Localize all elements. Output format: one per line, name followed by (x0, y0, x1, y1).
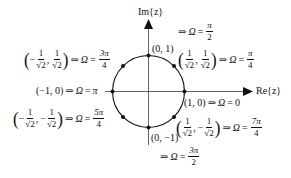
omega-symbol: Ω (229, 55, 236, 65)
omega-symbol: Ω (170, 152, 177, 162)
label-omega-0: (1, 0) ⇒ Ω = 0 (184, 98, 240, 108)
coord-y-fraction: 1 √2 (52, 49, 61, 70)
equals-symbol: = (85, 114, 91, 124)
omega-fraction: π 4 (247, 49, 254, 70)
label-omega-3pi-4: ( − 1 √2 , 1 √2 ) ⇒ Ω = 3π 4 (24, 49, 111, 70)
omega-numerator: 3π (188, 146, 199, 157)
omega-denominator: 4 (248, 60, 253, 70)
label-omega-5pi-4: ( − 1 √2 , − 1 √2 ) ⇒ Ω = 5π 4 (13, 108, 105, 129)
omega-fraction: 7π 4 (251, 117, 262, 138)
coord-x-fraction: 1 √2 (183, 117, 192, 138)
coord-text: (0, 1) (152, 44, 174, 54)
omega-numerator: π (247, 49, 254, 60)
coord-text: (−1, 0) (36, 86, 63, 96)
omega-symbol: Ω (233, 123, 240, 133)
minus-sign: − (19, 114, 25, 124)
label-omega-7pi-4: ( 1 √2 , − 1 √2 ) ⇒ Ω = 7π 4 (176, 117, 263, 138)
equals-symbol: = (85, 86, 91, 96)
right-paren: ) (57, 109, 63, 129)
imag-axis-arrow-icon (144, 19, 153, 29)
label-coord-0-1: (0, 1) (152, 44, 174, 54)
numerator: 1 (202, 49, 209, 60)
implies-symbol: ⇒ (70, 55, 78, 65)
label-omega-pi-2: ⇒ Ω = π 2 (178, 21, 214, 42)
denominator: √2 (47, 119, 56, 129)
omega-fraction: π 2 (206, 21, 213, 42)
point-omega-5pi-4 (121, 115, 125, 119)
omega-numerator: π (206, 21, 213, 32)
coord-y-fraction: 1 √2 (201, 49, 210, 70)
minus-sign: − (198, 123, 204, 133)
right-paren: ) (63, 50, 69, 70)
coord-text: (1, 0) (184, 98, 206, 108)
point-omega-pi-4 (172, 64, 176, 68)
coord-x-fraction: 1 √2 (185, 49, 194, 70)
omega-symbol: Ω (188, 27, 195, 37)
comma: , (36, 114, 39, 124)
omega-denominator: 4 (254, 128, 259, 138)
omega-fraction: 5π 4 (93, 108, 104, 129)
real-axis-arrow-icon (243, 87, 253, 96)
numerator: 1 (38, 49, 45, 60)
comma: , (193, 123, 196, 133)
equals-symbol: = (198, 27, 204, 37)
point-omega-pi (111, 90, 115, 94)
implies-symbol: ⇒ (65, 114, 73, 124)
omega-value: 0 (235, 98, 240, 108)
denominator: √2 (204, 128, 213, 138)
implies-symbol: ⇒ (219, 55, 227, 65)
imag-axis-label-text: Im{z} (138, 7, 163, 17)
implies-symbol: ⇒ (208, 98, 216, 108)
minus-sign: − (30, 55, 36, 65)
equals-symbol: = (180, 152, 186, 162)
equals-symbol: = (238, 55, 244, 65)
omega-symbol: Ω (75, 114, 82, 124)
denominator: √2 (36, 60, 45, 70)
omega-denominator: 4 (97, 119, 102, 129)
left-paren: ( (178, 50, 184, 70)
implies-symbol: ⇒ (160, 152, 168, 162)
denominator: √2 (52, 60, 61, 70)
denominator: √2 (25, 119, 34, 129)
denominator: √2 (183, 128, 192, 138)
implies-symbol: ⇒ (222, 123, 230, 133)
point-omega-3pi-2 (147, 126, 151, 130)
implies-symbol: ⇒ (65, 86, 73, 96)
label-omega-3pi-2: ⇒ Ω = 3π 2 (160, 146, 200, 167)
denominator: √2 (185, 60, 194, 70)
denominator: √2 (201, 60, 210, 70)
coord-text: (0, −1) (151, 133, 178, 143)
numerator: 1 (184, 117, 191, 128)
point-omega-0 (183, 90, 187, 94)
minus-sign: − (40, 114, 46, 124)
omega-denominator: 2 (207, 32, 212, 42)
omega-symbol: Ω (76, 86, 83, 96)
omega-value: π (93, 86, 98, 96)
coord-y-fraction: 1 √2 (47, 108, 56, 129)
left-paren: ( (24, 50, 30, 70)
equals-symbol: = (90, 55, 96, 65)
omega-denominator: 4 (102, 60, 107, 70)
comma: , (47, 55, 50, 65)
label-omega-pi-4: ( 1 √2 , 1 √2 ) ⇒ Ω = π 4 (178, 49, 255, 70)
equals-symbol: = (242, 123, 248, 133)
point-omega-3pi-4 (121, 64, 125, 68)
numerator: 1 (54, 49, 61, 60)
real-axis-label-text: Re{z} (256, 86, 281, 96)
omega-numerator: 5π (93, 108, 104, 119)
omega-symbol: Ω (81, 55, 88, 65)
left-paren: ( (13, 109, 19, 129)
comma: , (195, 55, 198, 65)
right-paren: ) (215, 118, 221, 138)
point-omega-pi-2 (147, 54, 151, 58)
coord-y-fraction: 1 √2 (204, 117, 213, 138)
coord-x-fraction: 1 √2 (36, 49, 45, 70)
numerator: 1 (186, 49, 193, 60)
omega-fraction: 3π 4 (99, 49, 110, 70)
label-coord-0-neg1: (0, −1) (151, 133, 178, 143)
numerator: 1 (206, 117, 213, 128)
omega-denominator: 2 (192, 157, 197, 167)
omega-numerator: 7π (251, 117, 262, 128)
omega-symbol: Ω (218, 98, 225, 108)
coord-x-fraction: 1 √2 (25, 108, 34, 129)
